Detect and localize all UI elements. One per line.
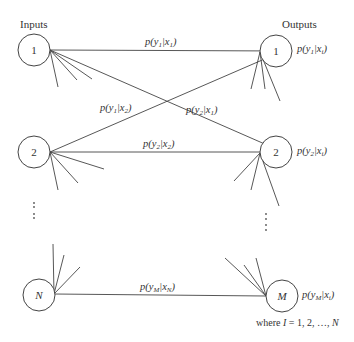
channel-transition-diagram: Inputs Outputs 1 2 N 1 xyxy=(0,0,354,342)
input-node-2: 2 xyxy=(18,136,50,168)
edge-stub xyxy=(244,265,266,296)
label-p-y1-x1: p(y1|x1) xyxy=(144,36,177,49)
label-p-yM-xi: p(yM|xi) xyxy=(301,289,335,302)
label-p-y1-xi: p(y1|xi) xyxy=(296,43,327,56)
edge-stub xyxy=(234,153,260,181)
label-p-yM-xN: p(yM|xN) xyxy=(139,281,175,294)
output-node-2-label: 2 xyxy=(273,146,279,158)
index-footnote: where I = 1, 2, …, N xyxy=(256,317,340,328)
label-p-y2-xi: p(y2|xi) xyxy=(296,145,327,158)
input-node-1: 1 xyxy=(18,34,50,66)
output-ellipsis xyxy=(265,213,267,231)
input-node-2-label: 2 xyxy=(31,146,37,158)
input-node-N: N xyxy=(23,279,55,311)
output-node-1-label: 1 xyxy=(273,45,279,57)
label-p-y2-x1: p(y2|x1) xyxy=(185,104,218,117)
edge-stub xyxy=(54,255,64,294)
edge-stub xyxy=(50,50,58,87)
edge-x1-y1 xyxy=(50,50,283,51)
edge-stub xyxy=(251,52,260,89)
input-ellipsis xyxy=(33,202,35,219)
edge-stub xyxy=(50,50,77,80)
edge-xN-yM xyxy=(54,294,266,296)
label-p-y1-x2: p(y1|x2) xyxy=(99,102,132,115)
output-node-2: 2 xyxy=(260,136,292,168)
edge-stub xyxy=(50,50,92,79)
label-p-y2-x2: p(y2|x2) xyxy=(142,138,175,151)
output-node-M: M xyxy=(266,280,298,312)
outputs-header: Outputs xyxy=(282,18,317,30)
output-node-M-label: M xyxy=(276,290,287,302)
edge-stub xyxy=(50,152,58,190)
edge-stub xyxy=(256,258,266,296)
output-node-1: 1 xyxy=(260,35,292,67)
edge-stub xyxy=(53,244,54,294)
inputs-header: Inputs xyxy=(20,18,48,30)
input-node-N-label: N xyxy=(34,289,43,301)
edge-stub xyxy=(225,258,266,296)
input-node-1-label: 1 xyxy=(31,44,37,56)
edge-stub xyxy=(251,153,260,190)
